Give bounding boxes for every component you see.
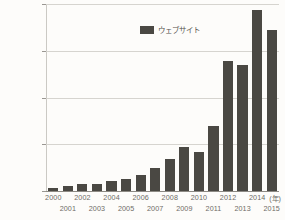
legend: ウェブサイト [140, 24, 200, 35]
x-axis-tick-label: 2008 [162, 193, 178, 202]
bar-slot [77, 4, 87, 191]
bar [237, 65, 247, 191]
x-axis-tick-label: 2005 [118, 204, 134, 213]
x-axis-tick-label: 2000 [45, 193, 61, 202]
bar-slot [63, 4, 73, 191]
bar [150, 168, 160, 191]
x-axis-tick-labels: (年) 200020012002200320042005200620072008… [46, 191, 279, 220]
x-axis-tick-label: 2015 [264, 204, 280, 213]
y-axis-tick [42, 4, 46, 5]
x-axis-tick-label: 2001 [60, 204, 76, 213]
x-axis-tick-label: 2004 [103, 193, 119, 202]
bar-slot [48, 4, 58, 191]
bar-slot [223, 4, 233, 191]
x-axis-tick-label: 2010 [191, 193, 207, 202]
bar-chart: 0250,000,000500,000,000750,000,0001,000,… [0, 0, 285, 220]
bar-slot [106, 4, 116, 191]
bar [223, 61, 233, 191]
bar [208, 126, 218, 191]
bar [121, 179, 131, 191]
bar [92, 184, 102, 191]
legend-label-website: ウェブサイト [158, 24, 200, 35]
x-axis-tick-label: 2009 [176, 204, 192, 213]
bar-slot [121, 4, 131, 191]
x-axis-tick-label: 2012 [220, 193, 236, 202]
bar [165, 159, 175, 191]
y-axis-tick [42, 98, 46, 99]
x-axis-tick-label: 2014 [249, 193, 265, 202]
bar [267, 30, 277, 191]
y-axis-tick [42, 144, 46, 145]
x-axis-unit-label: (年) [269, 193, 281, 203]
bar [106, 181, 116, 191]
bar-slot [267, 4, 277, 191]
bar-slot [92, 4, 102, 191]
legend-swatch-website [140, 26, 154, 34]
bar-slot [252, 4, 262, 191]
y-axis-tick [42, 51, 46, 52]
x-axis-tick-label: 2002 [74, 193, 90, 202]
bar [77, 184, 87, 191]
x-axis-tick-label: 2007 [147, 204, 163, 213]
bar-slot [208, 4, 218, 191]
bar [194, 152, 204, 191]
bar [136, 175, 146, 191]
bar [179, 147, 189, 192]
x-axis-tick-label: 2003 [89, 204, 105, 213]
bar [252, 10, 262, 191]
x-axis-tick-label: 2011 [206, 204, 222, 213]
x-axis-tick-label: 2006 [132, 193, 148, 202]
bar-slot [237, 4, 247, 191]
x-axis-tick-label: 2013 [234, 204, 250, 213]
